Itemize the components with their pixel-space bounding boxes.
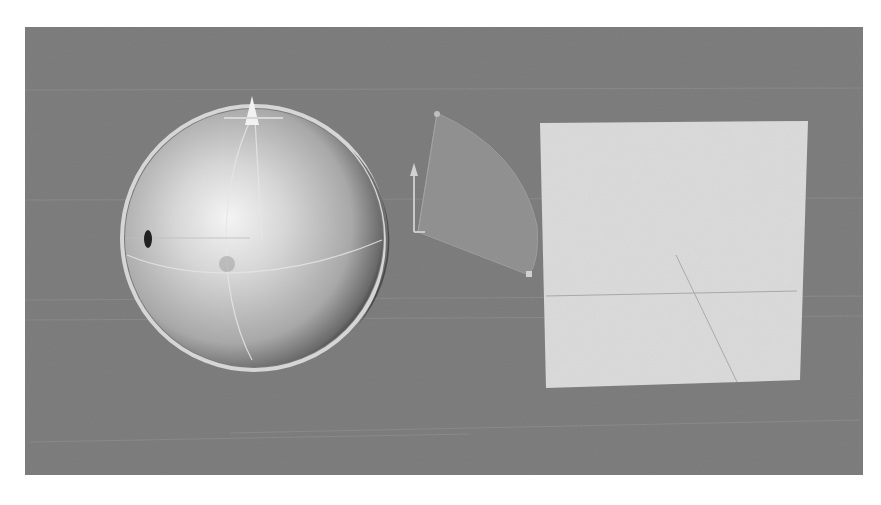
figure-caption (0, 490, 881, 505)
sector-corner-handle[interactable] (526, 271, 532, 277)
pivot-marker (144, 230, 152, 248)
viewport-scene (25, 27, 863, 475)
sector-apex-handle[interactable] (434, 111, 440, 117)
3d-viewport[interactable] (25, 27, 863, 475)
plane-object[interactable] (540, 121, 808, 388)
center-handle[interactable] (219, 256, 235, 272)
figure (0, 0, 881, 505)
